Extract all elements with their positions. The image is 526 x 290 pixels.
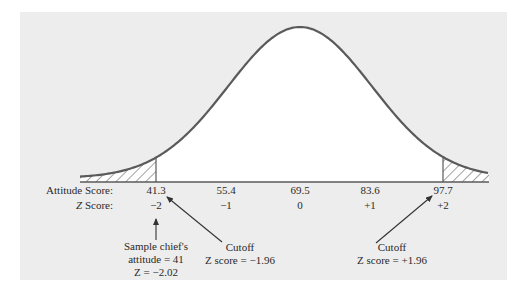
z-score-row-suffix: Score: [82, 199, 113, 211]
attitude-score-row-label: Attitude Score: [46, 184, 113, 196]
attitude-score-value: 69.5 [290, 184, 310, 196]
sample-line-3: Z = −2.02 [134, 266, 178, 278]
attitude-score-value: 83.6 [360, 184, 380, 196]
cutoff-left-line-2: Z score = −1.96 [205, 254, 275, 266]
z-score-value: +2 [437, 199, 449, 211]
z-score-value: 0 [297, 199, 303, 211]
z-score-value: +1 [364, 199, 376, 211]
attitude-score-value: 41.3 [146, 184, 166, 196]
cutoff-right-line-1: Cutoff [378, 241, 407, 253]
z-score-value: −1 [220, 199, 232, 211]
cutoff-left-line-1: Cutoff [226, 241, 255, 253]
sample-line-1: Sample chief's [124, 240, 188, 252]
normal-curve-diagram: Attitude Score: Z Score: 41.3 55.4 69.5 … [0, 0, 526, 290]
sample-line-2: attitude = 41 [128, 253, 184, 265]
z-score-row-label: Z Score: [76, 199, 113, 211]
z-score-value: −2 [150, 199, 162, 211]
attitude-score-value: 97.7 [433, 184, 453, 196]
attitude-score-value: 55.4 [216, 184, 236, 196]
cutoff-right-line-2: Z score = +1.96 [357, 254, 427, 266]
